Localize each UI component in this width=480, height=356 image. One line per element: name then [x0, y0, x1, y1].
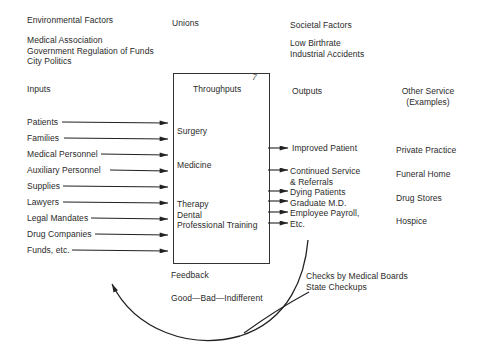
diagram-connectors: [0, 0, 480, 356]
input-arrow: [62, 122, 168, 123]
input-arrow: [95, 234, 168, 235]
input-arrow: [63, 202, 168, 203]
input-arrow: [63, 186, 168, 187]
checks-curve: [244, 292, 309, 333]
input-arrow: [110, 170, 168, 171]
input-arrow: [64, 138, 168, 139]
input-arrow: [101, 154, 168, 155]
input-arrow: [72, 250, 168, 251]
feedback-loop-curve: [112, 240, 308, 340]
input-arrow: [91, 218, 168, 219]
